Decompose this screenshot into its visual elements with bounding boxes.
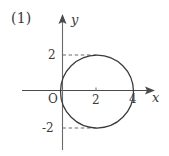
y-tick-label-2: 2 [48, 49, 56, 61]
figure-panel: (1) y x O 2 -2 2 4 [0, 0, 169, 156]
origin-label: O [48, 93, 58, 105]
y-tick-label-negative-2: -2 [42, 122, 54, 134]
x-axis-label: x [152, 91, 159, 104]
item-number-label: (1) [11, 11, 31, 25]
x-tick-label-2: 2 [92, 94, 100, 106]
y-axis-label: y [71, 13, 78, 26]
circle-curve [61, 55, 134, 128]
x-tick-label-4: 4 [129, 93, 137, 105]
